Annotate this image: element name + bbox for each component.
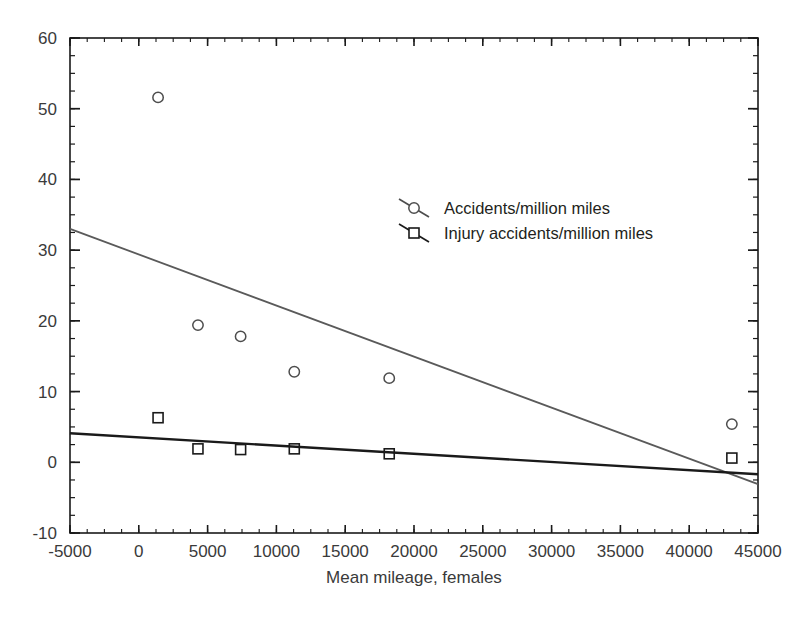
- x-tick-label: 45000: [734, 542, 781, 561]
- x-tick-label: 15000: [322, 542, 369, 561]
- x-tick-label: 35000: [597, 542, 644, 561]
- legend-label-1: Accidents/million miles: [444, 199, 610, 217]
- x-tick-label: 0: [134, 542, 143, 561]
- legend-square-icon: [409, 228, 419, 238]
- x-tick-label: -5000: [48, 542, 91, 561]
- y-tick-label: 60: [38, 29, 57, 48]
- chart-container: -500005000100001500020000250003000035000…: [0, 0, 811, 621]
- y-tick-label: 10: [38, 383, 57, 402]
- y-tick-label: -10: [32, 524, 57, 543]
- y-tick-label: 40: [38, 170, 57, 189]
- y-tick-label: 50: [38, 100, 57, 119]
- y-tick-label: 20: [38, 312, 57, 331]
- y-tick-label: 30: [38, 241, 57, 260]
- x-tick-label: 30000: [528, 542, 575, 561]
- x-tick-label: 10000: [253, 542, 300, 561]
- scatter-plot: -500005000100001500020000250003000035000…: [0, 0, 811, 621]
- x-tick-label: 20000: [390, 542, 437, 561]
- x-axis-title: Mean mileage, females: [326, 568, 502, 587]
- x-tick-label: 40000: [666, 542, 713, 561]
- y-tick-label: 0: [48, 453, 57, 472]
- legend-circle-icon: [409, 203, 419, 213]
- legend-label-2: Injury accidents/million miles: [444, 224, 653, 242]
- x-tick-label: 25000: [459, 542, 506, 561]
- x-tick-label: 5000: [189, 542, 227, 561]
